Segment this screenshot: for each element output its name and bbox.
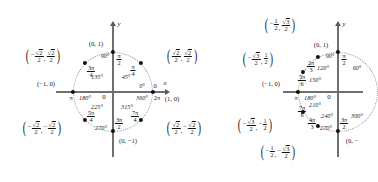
right-3pi2-denominator: 2 [340,123,348,130]
right-3pi2-numerator: 3π [340,117,348,123]
right-radian-pi: π [294,95,297,101]
right-close-paren-240: ) [292,146,295,158]
right-radian-2pi-over-3: 2π3 [307,57,315,73]
right-radian-3pi-over-2: 3π2 [340,114,348,130]
right-y-axis [337,26,338,157]
right-label-150deg: 150° [309,77,321,83]
right-240-x-denominator: 2 [270,151,275,158]
right-pi2-denominator: 2 [341,59,346,66]
right-150-comma: , [261,59,263,66]
right-7pi6-denominator: 6 [298,111,306,118]
right-coord-neg-half-neg-sqrt3: ( − 12 , − √32 ) [260,144,296,160]
right-close-paren-120: ) [292,19,295,31]
right-7pi6-numerator: 7π [298,105,306,111]
right-coord-0-1: (0, 1) [314,42,328,49]
right-210-y-denominator: 2 [263,124,268,131]
right-open-paren-120: ( [265,19,268,31]
right-radian-pi-over-2: π2 [341,50,346,66]
right-5pi6-numerator: 5π [298,74,306,80]
right-120-y-denominator: 2 [282,25,291,32]
right-label-300deg: 300° [351,113,363,119]
right-open-paren-240: ( [261,146,264,158]
right-label-60deg: 60° [353,65,362,71]
right-240-y-numerator: √3 [282,145,291,152]
right-close-paren-150: ) [270,53,273,65]
right-120-comma: , [279,25,281,32]
right-label-210deg: 210° [309,102,321,108]
right-radian-7pi-over-6: 7π6 [298,102,306,118]
right-240-comma: , [275,152,277,159]
right-radian-5pi-over-6: 5π6 [298,71,306,87]
right-close-paren-210: ) [269,119,272,131]
right-210-x-numerator: √3 [247,118,256,125]
right-y-axis-label: y [342,21,345,28]
right-coord-neg-half-sqrt3: ( − 12 , √32 ) [264,17,296,33]
right-4pi3-denominator: 3 [308,123,316,130]
right-coord-neg-sqrt3-half: ( − √32 , 12 ) [242,51,274,67]
right-origin-label: 0 [327,94,331,101]
right-coord-neg1-0: (−1, 0) [262,81,280,88]
right-label-270deg: 270° [320,125,332,131]
right-4pi3-numerator: 4π [308,117,316,123]
right-2pi3-denominator: 3 [307,66,315,73]
right-150-x-numerator: √3 [252,52,261,59]
right-label-120deg: 120° [317,65,329,71]
right-150-y-denominator: 2 [264,58,269,65]
right-120-y-numerator: √3 [282,18,291,25]
right-coord-neg-sqrt3-neg-half: ( − √32 , − 12 ) [237,117,273,133]
right-label-90deg: 90° [326,53,335,59]
right-240-y-denominator: 2 [282,152,291,159]
right-5pi6-denominator: 6 [298,80,306,87]
right-radian-4pi-over-3: 4π3 [308,114,316,130]
right-210-comma: , [256,125,258,132]
right-open-paren-150: ( [243,53,246,65]
right-coord-0-neg1: (0, − [346,138,359,145]
right-label-240deg: 240° [321,113,333,119]
right-150-x-denominator: 2 [252,59,261,66]
right-120-x-denominator: 2 [274,24,279,31]
right-y-axis-arrow-icon [335,21,341,26]
right-2pi3-numerator: 2π [307,60,315,66]
right-open-paren-210: ( [238,119,241,131]
right-210-x-denominator: 2 [247,125,256,132]
